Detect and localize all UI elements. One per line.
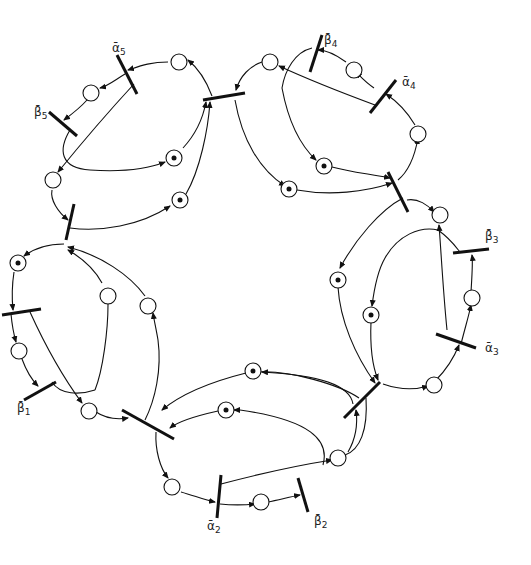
place-p2a	[164, 479, 180, 495]
label-beta-2: β̄2	[314, 514, 327, 530]
token-icon	[336, 278, 341, 283]
label-alpha-3: ᾱ3	[485, 341, 499, 357]
label-beta-3: β̄3	[485, 229, 498, 245]
place-p1d	[81, 403, 97, 419]
transition-alpha-2	[217, 475, 221, 518]
subnet-4	[235, 35, 426, 212]
token-icon	[224, 408, 229, 413]
subnet-5	[45, 54, 245, 240]
transition-shared-51	[66, 204, 74, 240]
place-p3c	[426, 377, 442, 393]
place-p5c	[45, 172, 61, 188]
transition-beta-1	[24, 382, 56, 400]
token-icon	[322, 164, 327, 169]
place-p5b	[83, 85, 99, 101]
place-p4a	[262, 54, 278, 70]
place-p2c	[330, 450, 346, 466]
transition-alpha-5	[117, 55, 137, 94]
subnet-1	[2, 244, 159, 420]
label-beta-5: β̄5	[34, 105, 47, 121]
transition-alpha-1	[2, 309, 41, 315]
transition-shared-45	[203, 93, 245, 100]
transition-beta-4	[310, 35, 322, 72]
place-p1b	[100, 288, 116, 304]
label-beta-4: β̄4	[324, 33, 338, 49]
place-p2b	[253, 494, 269, 510]
subnet-2	[122, 363, 366, 518]
label-beta-1: β̄1	[17, 401, 30, 417]
labels: ᾱ5 β̄5 β̄4 ᾱ4 β̄3 ᾱ3 ᾱ2 β̄2 β̄1	[17, 33, 499, 535]
token-icon	[287, 187, 292, 192]
transition-alpha-3	[436, 334, 476, 348]
place-p4b	[346, 62, 362, 78]
token-icon	[369, 313, 374, 318]
place-p4c	[410, 126, 426, 142]
place-p1c	[140, 298, 156, 314]
label-alpha-5: ᾱ5	[112, 41, 126, 57]
place-p3a	[432, 207, 448, 223]
place-p5a	[171, 54, 187, 70]
token-icon	[172, 156, 177, 161]
subnet-3	[330, 198, 489, 418]
token-icon	[178, 198, 183, 203]
token-icon	[251, 369, 256, 374]
place-p1a	[11, 343, 27, 359]
transition-beta-5	[49, 112, 77, 136]
label-alpha-4: ᾱ4	[402, 75, 416, 91]
label-alpha-2: ᾱ2	[207, 519, 221, 535]
transition-shared-23	[344, 382, 380, 418]
transition-alpha-4	[370, 80, 396, 113]
petri-net-diagram: ᾱ5 β̄5 β̄4 ᾱ4 β̄3 ᾱ3 ᾱ2 β̄2 β̄1	[0, 0, 531, 565]
place-p3b	[464, 290, 480, 306]
token-icon	[16, 261, 21, 266]
